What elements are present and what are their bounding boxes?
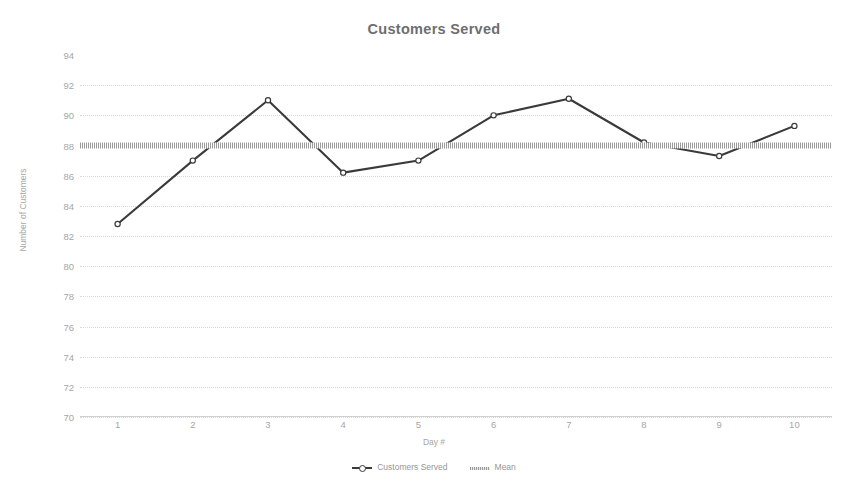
- y-tick-label: 90: [40, 110, 74, 121]
- series-line-customers-served: [118, 99, 795, 224]
- x-axis-tick-labels: 12345678910: [80, 419, 832, 439]
- x-tick-label: 1: [98, 419, 138, 430]
- y-axis-title: Number of Customers: [18, 140, 28, 280]
- y-tick-label: 82: [40, 231, 74, 242]
- data-point-marker: [416, 158, 421, 163]
- y-tick-label: 88: [40, 140, 74, 151]
- plot-area: [80, 55, 832, 417]
- x-tick-label: 8: [624, 419, 664, 430]
- legend-item[interactable]: Mean: [470, 462, 516, 472]
- y-tick-label: 74: [40, 351, 74, 362]
- x-tick-label: 3: [248, 419, 288, 430]
- y-tick-label: 72: [40, 381, 74, 392]
- y-tick-label: 80: [40, 261, 74, 272]
- legend-label: Mean: [495, 462, 516, 472]
- x-tick-label: 5: [398, 419, 438, 430]
- data-point-marker: [717, 153, 722, 158]
- y-tick-label: 86: [40, 170, 74, 181]
- chart-title: Customers Served: [0, 21, 868, 37]
- chart-container: Customers Served 70727476788082848688909…: [0, 0, 868, 502]
- data-point-marker: [491, 113, 496, 118]
- y-tick-label: 92: [40, 80, 74, 91]
- chart-legend: Customers ServedMean: [0, 462, 868, 472]
- legend-label: Customers Served: [377, 462, 447, 472]
- legend-swatch-series-icon: [352, 463, 372, 472]
- data-point-marker: [190, 158, 195, 163]
- data-point-marker: [341, 170, 346, 175]
- x-tick-label: 2: [173, 419, 213, 430]
- data-point-marker: [115, 221, 120, 226]
- data-point-marker: [265, 98, 270, 103]
- legend-item[interactable]: Customers Served: [352, 462, 447, 472]
- x-tick-label: 7: [549, 419, 589, 430]
- x-tick-label: 4: [323, 419, 363, 430]
- y-tick-label: 78: [40, 291, 74, 302]
- x-tick-label: 10: [774, 419, 814, 430]
- y-tick-label: 94: [40, 50, 74, 61]
- series-layer: [80, 55, 832, 417]
- y-tick-label: 70: [40, 412, 74, 423]
- data-point-marker: [566, 96, 571, 101]
- x-tick-label: 6: [474, 419, 514, 430]
- y-tick-label: 84: [40, 200, 74, 211]
- x-axis-title: Day #: [0, 437, 868, 447]
- data-point-marker: [792, 123, 797, 128]
- y-tick-label: 76: [40, 321, 74, 332]
- x-tick-label: 9: [699, 419, 739, 430]
- legend-swatch-mean-icon: [470, 463, 490, 472]
- y-axis-tick-labels: 70727476788082848688909294: [34, 55, 74, 417]
- mean-line: [80, 143, 832, 149]
